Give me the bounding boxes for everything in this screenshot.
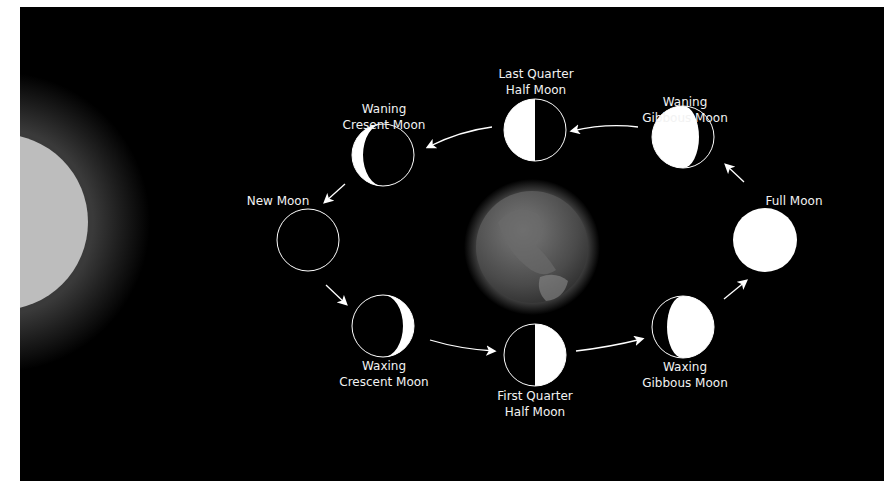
label-last-quarter: Last Quarter Half Moon [498, 66, 573, 98]
arrow-icon [572, 126, 638, 131]
earth-icon [464, 179, 600, 315]
label-waning-gibbous: Waning Gibbous Moon [642, 94, 728, 126]
diagram-graphics [20, 7, 884, 481]
sun-icon [20, 72, 150, 372]
arrow-icon [430, 340, 494, 351]
label-waning-crescent: Waning Cresent Moon [343, 101, 426, 133]
waning-crescent-moon-icon [352, 124, 414, 186]
label-new-moon: New Moon [247, 193, 310, 209]
label-first-quarter: First Quarter Half Moon [497, 388, 572, 420]
new-moon-icon [277, 209, 339, 271]
arrow-icon [325, 184, 345, 202]
arrow-icon [724, 281, 746, 299]
label-waxing-gibbous: Waxing Gibbous Moon [642, 359, 728, 391]
full-moon-icon [733, 208, 797, 272]
moon-phase-diagram: New Moon Waxing Crescent Moon First Quar… [20, 7, 884, 481]
label-full-moon: Full Moon [766, 193, 823, 209]
waxing-gibbous-moon-icon [652, 296, 714, 358]
waxing-crescent-moon-icon [352, 295, 414, 357]
last-quarter-moon-icon [504, 99, 566, 161]
arrow-icon [726, 165, 744, 182]
arrow-icon [428, 127, 492, 147]
arrow-icon [576, 339, 642, 351]
label-waxing-crescent: Waxing Crescent Moon [339, 358, 428, 390]
first-quarter-moon-icon [504, 324, 566, 386]
arrow-icon [326, 285, 346, 304]
